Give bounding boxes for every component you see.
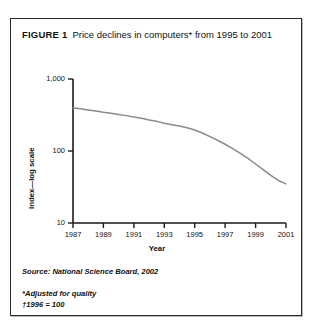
price-index-line (73, 108, 286, 184)
x-tick-label-1991: 1991 (120, 230, 148, 239)
x-tick-label-1987: 1987 (59, 230, 87, 239)
y-axis-title: Index—log scale (27, 147, 36, 209)
footnote-dagger: †1996 = 100 (22, 300, 64, 309)
x-tick-label-1995: 1995 (181, 230, 209, 239)
x-tick-label-1993: 1993 (150, 230, 178, 239)
x-tick-label-1989: 1989 (89, 230, 117, 239)
x-tick-label-1997: 1997 (211, 230, 239, 239)
chart-axes (73, 79, 286, 223)
x-tick-label-1999: 1999 (242, 230, 270, 239)
footnote-asterisk: *Adjusted for quality (22, 289, 96, 298)
x-axis-title: Year (11, 244, 303, 253)
figure-panel: FIGURE 1Price declines in computers* fro… (10, 18, 302, 316)
source-note: Source: National Science Board, 2002 (22, 267, 158, 276)
y-tick-label-10: 10 (29, 218, 65, 227)
y-tick-label-1000: 1,000 (29, 74, 65, 83)
x-tick-label-2001: 2001 (272, 230, 300, 239)
